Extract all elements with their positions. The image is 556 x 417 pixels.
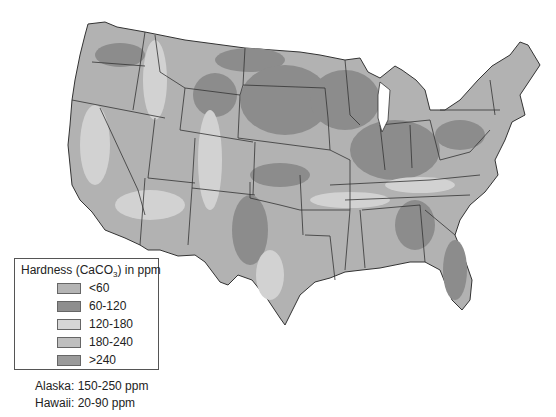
legend: Hardness (CaCO3) in ppm <60 60-120 120-1…	[14, 258, 159, 370]
hawaii-note: Hawaii: 20-90 ppm	[35, 395, 148, 412]
legend-item-180-240: 180-240	[57, 333, 152, 351]
legend-item-gt240: >240	[57, 351, 152, 369]
alaska-note: Alaska: 150-250 ppm	[35, 378, 148, 395]
legend-item-lt60: <60	[57, 279, 152, 297]
notes: Alaska: 150-250 ppm Hawaii: 20-90 ppm	[35, 378, 148, 412]
legend-label: 180-240	[89, 335, 133, 349]
legend-swatch	[57, 301, 81, 312]
legend-label: 120-180	[89, 317, 133, 331]
legend-label: <60	[89, 281, 109, 295]
legend-label: 60-120	[89, 299, 126, 313]
legend-swatch	[57, 337, 81, 348]
legend-item-120-180: 120-180	[57, 315, 152, 333]
legend-label: >240	[89, 353, 116, 367]
legend-title: Hardness (CaCO3) in ppm	[21, 263, 152, 279]
legend-swatch	[57, 283, 81, 294]
legend-swatch	[57, 319, 81, 330]
legend-item-60-120: 60-120	[57, 297, 152, 315]
legend-swatch	[57, 355, 81, 366]
